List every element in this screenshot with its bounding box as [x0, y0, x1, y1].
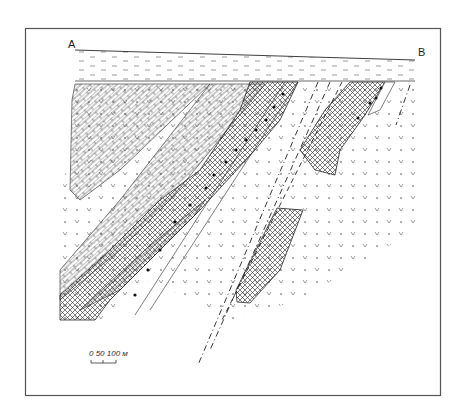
profile-end-b: B	[418, 46, 425, 58]
scale-bar-label: 0 50 100 м	[89, 349, 128, 358]
profile-end-a: A	[68, 38, 76, 50]
cross-section-drawing: A B 0 50 100 м	[0, 0, 464, 419]
